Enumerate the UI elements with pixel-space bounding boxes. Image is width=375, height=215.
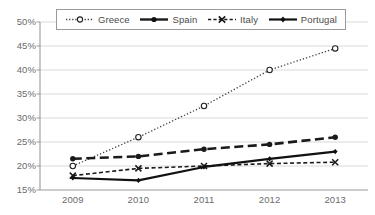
dashed-line-cross-marker-icon: [207, 14, 237, 25]
data-point: [333, 149, 338, 154]
legend-entry-portugal[interactable]: Portugal: [268, 14, 337, 25]
data-point: [267, 67, 272, 72]
data-point: [333, 135, 338, 140]
legend: Greece Spain Italy Portugal: [56, 9, 346, 30]
dotted-line-open-circle-marker-icon: [65, 14, 95, 25]
line-chart: 50% 45% 40% 35% 30% 25% 20% 15% 2009 201…: [0, 0, 375, 215]
legend-entry-spain[interactable]: Spain: [139, 14, 197, 25]
legend-entry-italy[interactable]: Italy: [207, 14, 258, 25]
legend-label: Portugal: [301, 14, 337, 25]
dashed-line-filled-circle-marker-icon: [139, 14, 169, 25]
data-point: [70, 156, 75, 161]
legend-label: Italy: [240, 14, 258, 25]
data-point: [267, 156, 272, 161]
solid-line-filled-marker-icon: [268, 14, 298, 25]
data-point: [136, 135, 141, 140]
series-layer: [70, 46, 338, 183]
gridlines: [40, 22, 368, 166]
plot-area: [0, 0, 375, 215]
data-point: [70, 163, 75, 168]
data-point: [333, 46, 338, 51]
legend-label: Greece: [98, 14, 130, 25]
data-point: [136, 154, 141, 159]
legend-label: Spain: [172, 14, 197, 25]
data-point: [267, 142, 272, 147]
series-spain: [70, 135, 338, 162]
data-point: [201, 103, 206, 108]
data-point: [201, 147, 206, 152]
legend-entry-greece[interactable]: Greece: [65, 14, 130, 25]
data-point: [136, 178, 141, 183]
